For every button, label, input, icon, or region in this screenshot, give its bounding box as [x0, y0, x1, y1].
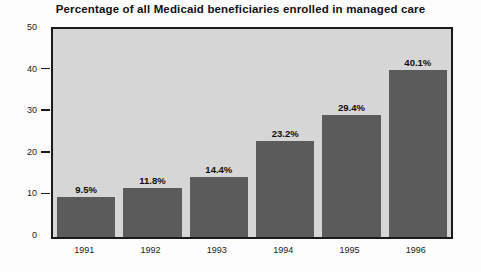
bar-value-label: 11.8%	[123, 175, 181, 186]
y-axis-tick-label: 20	[27, 147, 37, 157]
bar-1995	[322, 115, 380, 237]
bar-value-label: 23.2%	[256, 128, 314, 139]
y-axis-tick-label: 10	[27, 188, 37, 198]
y-axis-tick-mark	[41, 68, 50, 70]
x-axis-tick-label: 1991	[74, 245, 94, 255]
x-axis: 199119921993199419951996	[51, 241, 453, 263]
y-axis-tick-label: 50	[27, 22, 37, 32]
x-axis-tick-label: 1996	[406, 245, 426, 255]
bar-1994	[256, 141, 314, 238]
bar-value-label: 9.5%	[57, 184, 115, 195]
y-axis-tick-mark	[41, 109, 50, 111]
chart-title: Percentage of all Medicaid beneficiaries…	[0, 3, 481, 15]
y-axis-tick-label: 40	[27, 64, 37, 74]
y-axis-tick-mark	[41, 193, 50, 195]
x-axis-tick-label: 1992	[140, 245, 160, 255]
bar-value-label: 40.1%	[389, 57, 447, 68]
bar-1991	[57, 197, 115, 237]
y-axis-tick-label: 30	[27, 105, 37, 115]
bar-1993	[190, 177, 248, 237]
y-axis: 01020304050	[0, 0, 51, 272]
bar-value-label: 14.4%	[190, 164, 248, 175]
bar-1992	[123, 188, 181, 237]
plot-area: 9.5%11.8%14.4%23.2%29.4%40.1%	[51, 27, 453, 239]
x-axis-tick-label: 1993	[207, 245, 227, 255]
y-axis-tick-label: 0	[32, 230, 37, 240]
x-axis-tick-label: 1994	[273, 245, 293, 255]
bar-1996	[389, 70, 447, 237]
y-axis-tick-mark	[41, 151, 50, 153]
bars-layer: 9.5%11.8%14.4%23.2%29.4%40.1%	[53, 29, 451, 237]
x-axis-tick-label: 1995	[339, 245, 359, 255]
bar-value-label: 29.4%	[322, 102, 380, 113]
chart-figure: Percentage of all Medicaid beneficiaries…	[0, 0, 481, 272]
